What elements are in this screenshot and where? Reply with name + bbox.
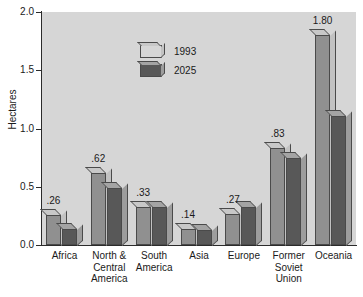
bar-1993 bbox=[225, 214, 240, 245]
bar-2025 bbox=[241, 207, 256, 245]
bar-value-label: .62 bbox=[86, 154, 110, 164]
y-axis-tick-mark bbox=[36, 70, 42, 71]
bar-front-face bbox=[286, 158, 301, 245]
bar-value-label: .27 bbox=[221, 195, 245, 205]
bar-front-face bbox=[315, 35, 330, 245]
bar-1993 bbox=[136, 207, 151, 245]
legend-swatch-2025 bbox=[140, 64, 162, 77]
bar-front-face bbox=[181, 229, 196, 245]
x-axis-label-oceania: Oceania bbox=[311, 250, 356, 262]
bar-value-label: .33 bbox=[131, 188, 155, 198]
x-axis-label-asia: Asia bbox=[177, 250, 222, 262]
bar-front-face bbox=[331, 116, 346, 245]
x-axis-line bbox=[41, 245, 357, 246]
x-axis-label-africa: Africa bbox=[42, 250, 87, 262]
bar-front-face bbox=[62, 229, 77, 245]
y-axis-tick-mark bbox=[36, 129, 42, 130]
bar-value-label: .26 bbox=[41, 196, 65, 206]
bar-1993 bbox=[181, 229, 196, 245]
bar-front-face bbox=[152, 207, 167, 245]
bar-front-face bbox=[46, 215, 61, 245]
bar-1993 bbox=[315, 35, 330, 245]
x-axis-label-north: North & Central America bbox=[87, 250, 132, 285]
x-axis-label-former: Former Soviet Union bbox=[266, 250, 311, 285]
legend-label-1993: 1993 bbox=[174, 46, 196, 57]
bar-side-face bbox=[256, 202, 262, 246]
bar-group bbox=[91, 12, 122, 245]
bar-value-label: 1.80 bbox=[311, 16, 335, 26]
x-axis-label-europe: Europe bbox=[221, 250, 266, 262]
y-axis-tick-mark bbox=[36, 187, 42, 188]
bar-group bbox=[315, 12, 346, 245]
bar-2025 bbox=[107, 188, 122, 245]
y-axis-tick-label: 0.0 bbox=[20, 240, 34, 250]
bar-2025 bbox=[152, 207, 167, 245]
bar-1993 bbox=[270, 148, 285, 245]
y-axis-tick-mark bbox=[36, 245, 42, 246]
bar-side-face bbox=[301, 153, 307, 246]
bar-front-face bbox=[136, 207, 151, 245]
bar-side-face bbox=[346, 111, 352, 246]
y-axis-tick-label: 1.5 bbox=[20, 65, 34, 75]
bar-front-face bbox=[107, 188, 122, 245]
bar-side-face bbox=[167, 202, 173, 246]
y-axis-tick-label: 0.5 bbox=[20, 182, 34, 192]
bar-1993 bbox=[46, 215, 61, 245]
bar-2025 bbox=[62, 229, 77, 245]
bar-value-label: .83 bbox=[266, 129, 290, 139]
legend-swatch-top-face bbox=[137, 61, 161, 65]
bar-front-face bbox=[197, 230, 212, 245]
bar-group bbox=[46, 12, 77, 245]
y-axis-tick-label: 1.0 bbox=[20, 124, 34, 134]
y-axis-tick-mark bbox=[36, 12, 42, 13]
bar-2025 bbox=[197, 230, 212, 245]
y-axis-title: Hectares bbox=[7, 75, 18, 145]
legend-swatch-top-face bbox=[137, 42, 161, 46]
bar-chart-figure: Hectares 0.00.51.01.52.0 AfricaNorth & C… bbox=[0, 0, 363, 297]
bar-front-face bbox=[241, 207, 256, 245]
x-axis-label-south: South America bbox=[132, 250, 177, 273]
legend-swatch-1993 bbox=[140, 45, 162, 58]
bar-2025 bbox=[331, 116, 346, 245]
bar-2025 bbox=[286, 158, 301, 245]
y-axis-tick-label: 2.0 bbox=[20, 7, 34, 17]
bar-value-label: .14 bbox=[176, 210, 200, 220]
legend-label-2025: 2025 bbox=[174, 65, 196, 76]
bar-front-face bbox=[270, 148, 285, 245]
bar-group bbox=[225, 12, 256, 245]
bar-side-face bbox=[122, 184, 128, 246]
bar-front-face bbox=[225, 214, 240, 245]
